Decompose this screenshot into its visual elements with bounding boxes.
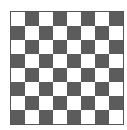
board-square-r2c2[interactable] — [25, 26, 39, 40]
board-square-r7c7[interactable] — [95, 96, 109, 110]
board-square-r6c7[interactable] — [95, 82, 109, 96]
board-square-r5c2[interactable] — [25, 68, 39, 82]
board-square-r5c7[interactable] — [95, 68, 109, 82]
board-square-r3c4[interactable] — [53, 40, 67, 54]
board-square-r4c2[interactable] — [25, 54, 39, 68]
board-square-r6c8[interactable] — [109, 82, 123, 96]
board-square-r2c3[interactable] — [39, 26, 53, 40]
board-square-r8c8[interactable] — [109, 110, 123, 124]
board-square-r8c1[interactable] — [11, 110, 25, 124]
board-square-r6c5[interactable] — [67, 82, 81, 96]
board-square-r8c6[interactable] — [81, 110, 95, 124]
board-square-r7c4[interactable] — [53, 96, 67, 110]
board-square-r6c1[interactable] — [11, 82, 25, 96]
board-square-r4c8[interactable] — [109, 54, 123, 68]
board-square-r5c8[interactable] — [109, 68, 123, 82]
board-square-r6c4[interactable] — [53, 82, 67, 96]
board-square-r1c1[interactable] — [11, 12, 25, 26]
board-square-r1c6[interactable] — [81, 12, 95, 26]
board-square-r3c8[interactable] — [109, 40, 123, 54]
board-square-r4c7[interactable] — [95, 54, 109, 68]
board-square-r8c5[interactable] — [67, 110, 81, 124]
board-square-r1c7[interactable] — [95, 12, 109, 26]
board-square-r7c8[interactable] — [109, 96, 123, 110]
board-square-r4c4[interactable] — [53, 54, 67, 68]
board-square-r2c5[interactable] — [67, 26, 81, 40]
board-square-r5c5[interactable] — [67, 68, 81, 82]
board-square-r7c1[interactable] — [11, 96, 25, 110]
board-square-r5c4[interactable] — [53, 68, 67, 82]
board-square-r8c7[interactable] — [95, 110, 109, 124]
board-square-r8c2[interactable] — [25, 110, 39, 124]
board-square-r2c1[interactable] — [11, 26, 25, 40]
board-square-r2c8[interactable] — [109, 26, 123, 40]
board-square-r2c7[interactable] — [95, 26, 109, 40]
board-square-r5c3[interactable] — [39, 68, 53, 82]
board-square-r4c1[interactable] — [11, 54, 25, 68]
board-square-r3c2[interactable] — [25, 40, 39, 54]
board-square-r5c1[interactable] — [11, 68, 25, 82]
board-square-r4c5[interactable] — [67, 54, 81, 68]
board-square-r4c3[interactable] — [39, 54, 53, 68]
board-square-r7c5[interactable] — [67, 96, 81, 110]
board-square-r3c6[interactable] — [81, 40, 95, 54]
board-square-r7c6[interactable] — [81, 96, 95, 110]
board-square-r8c3[interactable] — [39, 110, 53, 124]
board-square-r6c2[interactable] — [25, 82, 39, 96]
board-square-r7c3[interactable] — [39, 96, 53, 110]
board-square-r3c3[interactable] — [39, 40, 53, 54]
board-square-r1c8[interactable] — [109, 12, 123, 26]
board-square-r1c5[interactable] — [67, 12, 81, 26]
board-square-r7c2[interactable] — [25, 96, 39, 110]
board-square-r1c3[interactable] — [39, 12, 53, 26]
board-square-r6c6[interactable] — [81, 82, 95, 96]
board-square-r2c4[interactable] — [53, 26, 67, 40]
board-square-r1c2[interactable] — [25, 12, 39, 26]
checkerboard — [10, 11, 124, 125]
board-square-r6c3[interactable] — [39, 82, 53, 96]
board-square-r5c6[interactable] — [81, 68, 95, 82]
board-square-r3c5[interactable] — [67, 40, 81, 54]
board-square-r8c4[interactable] — [53, 110, 67, 124]
board-square-r2c6[interactable] — [81, 26, 95, 40]
board-square-r3c1[interactable] — [11, 40, 25, 54]
board-square-r3c7[interactable] — [95, 40, 109, 54]
board-square-r1c4[interactable] — [53, 12, 67, 26]
board-square-r4c6[interactable] — [81, 54, 95, 68]
